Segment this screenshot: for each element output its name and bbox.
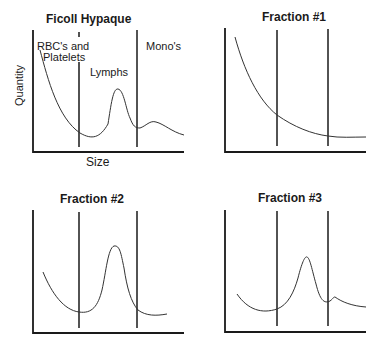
- panel-fraction-1: [225, 28, 366, 152]
- diagram-canvas: [0, 0, 380, 343]
- panel2-curve: [235, 37, 366, 137]
- panel2-axes: [225, 28, 366, 152]
- panel-fraction-3: [225, 210, 366, 332]
- panel-ficoll-hypaque: [33, 30, 184, 152]
- panel1-axes: [33, 30, 184, 152]
- panel4-curve: [237, 257, 366, 311]
- panel4-axes: [225, 210, 366, 332]
- panel-fraction-2: [33, 210, 184, 333]
- panel3-curve: [43, 246, 167, 315]
- panel1-curve: [40, 50, 184, 137]
